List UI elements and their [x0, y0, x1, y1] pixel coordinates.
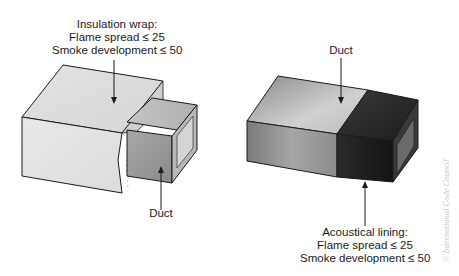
right-duct [247, 76, 418, 182]
acoustical-lining-smoke-development: Smoke development ≤ 50 [300, 252, 430, 265]
right-duct-label: Duct [323, 44, 359, 57]
insulation-wrap-title: Insulation wrap: [52, 18, 182, 31]
left-duct-label: Duct [143, 207, 179, 220]
acoustical-lining-flame-spread: Flame spread ≤ 25 [300, 239, 430, 252]
duct-insulation-diagram: Insulation wrap: Flame spread ≤ 25 Smoke… [0, 0, 459, 276]
insulation-wrap-label: Insulation wrap: Flame spread ≤ 25 Smoke… [52, 18, 182, 57]
acoustical-lining-label: Acoustical lining: Flame spread ≤ 25 Smo… [300, 226, 430, 265]
insulation-wrap-flame-spread: Flame spread ≤ 25 [52, 31, 182, 44]
insulation-wrap-smoke-development: Smoke development ≤ 50 [52, 44, 182, 57]
copyright-credit: © International Code Council [441, 159, 451, 262]
acoustical-lining-title: Acoustical lining: [300, 226, 430, 239]
